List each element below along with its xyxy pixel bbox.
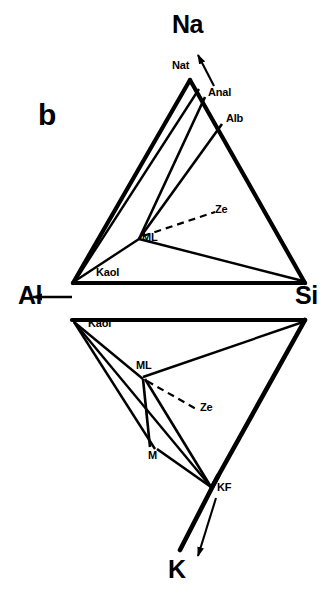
node-label-nat: Nat: [172, 60, 189, 71]
tieline-ml-to-si: [139, 239, 303, 281]
axis-label-na: Na: [172, 12, 203, 37]
node-label-ze-lower: Ze: [200, 402, 212, 413]
edge-si-to-kf: [212, 320, 305, 487]
node-label-m: M: [148, 450, 157, 461]
node-label-alb: Alb: [226, 113, 243, 124]
edge-nat-to-si: [190, 80, 305, 283]
phase-diagram-figure: b Na Al Si K Nat Anal Alb ML Kaol Ze Kao…: [0, 0, 332, 606]
node-label-ml-upper: ML: [142, 232, 157, 243]
node-label-ml-lower: ML: [136, 360, 151, 371]
tieline-nat-to-kaol: [75, 89, 199, 281]
edge-nat-to-al: [73, 80, 190, 283]
node-label-kaol-upper: Kaol: [96, 267, 119, 278]
node-label-anal: Anal: [208, 87, 231, 98]
upper-triangle-group: [73, 55, 305, 283]
axis-label-k: K: [168, 557, 186, 582]
tieline-ml-to-kf: [145, 379, 211, 487]
axis-label-si: Si: [295, 283, 318, 308]
tieline-alb-to-ml: [139, 124, 222, 239]
lower-triangle-group: [72, 320, 305, 556]
tieline-kaol-to-ml-lower: [74, 322, 143, 379]
diagram-canvas: [0, 0, 332, 606]
node-label-kaol-lower: Kaol: [88, 318, 111, 329]
node-label-ze-upper: Ze: [215, 204, 227, 215]
axis-label-al: Al: [18, 283, 42, 308]
panel-label-b: b: [38, 100, 56, 130]
arrow-to-na: [198, 55, 214, 86]
node-label-kf: KF: [217, 482, 231, 493]
